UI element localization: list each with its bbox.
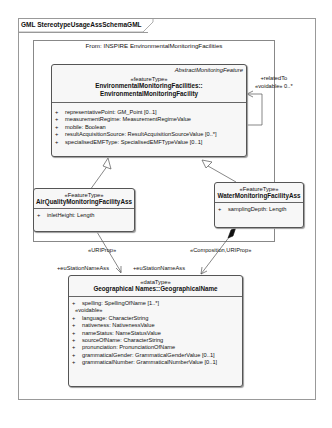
attribute-list: +representativePoint: GM_Point [0..1] +m… — [52, 102, 246, 148]
attribute: +resultAcquisitionSource: ResultAcquisit… — [55, 131, 243, 138]
voidable-label: «voidable» — [72, 307, 239, 314]
class-name: WaterMonitoringFacilityAss — [215, 192, 303, 200]
self-association-label: +relatedTo «voidable» 0..* — [255, 74, 293, 90]
class-environmental-monitoring-facility[interactable]: AbstractMonitoringFeature «featureType» … — [51, 64, 247, 157]
association-stereotype-composition: «Composition,URIProp» — [190, 247, 251, 253]
attribute: +representativePoint: GM_Point [0..1] — [55, 109, 243, 116]
class-name: Geographical Names::GeographicalName — [69, 285, 242, 293]
attribute-list: +samplingDepth: Length — [215, 202, 303, 215]
attribute: +nativeness: NativenessValue — [72, 322, 239, 329]
attribute: +sourceOfName: CharacterString — [72, 337, 239, 344]
attribute-list: +spelling: SpellingOfName [1..*] «voidab… — [69, 296, 242, 369]
association-role-air: +euStationNameAss — [57, 265, 109, 271]
association-role-water: +euStationNameAss — [133, 265, 185, 271]
attribute: +mobile: Boolean — [55, 124, 243, 131]
attribute-list: +inletHeight: Length — [34, 208, 134, 221]
attribute: +grammaticalGender: GrammaticalGenderVal… — [72, 352, 239, 359]
attribute: +grammaticalNumber: GrammaticalNumberVal… — [72, 359, 239, 366]
abstract-parent-label: AbstractMonitoringFeature — [52, 65, 246, 73]
attribute: +samplingDepth: Length — [218, 206, 300, 213]
class-air-quality-monitoring-facility[interactable]: «FeatureType» AirQualityMonitoringFacili… — [33, 188, 135, 232]
attribute: +nameStatus: NameStatusValue — [72, 330, 239, 337]
attribute: +specialisedEMFType: SpecialisedEMFTypeV… — [55, 139, 243, 146]
attribute: +inletHeight: Length — [37, 212, 131, 219]
attribute: +pronunciation: PronunciationOfName — [72, 344, 239, 351]
association-stereotype-uriprop: «URIProp» — [88, 247, 116, 253]
attribute: +measurementRegime: MeasurementRegimeVal… — [55, 116, 243, 123]
attribute: +language: CharacterString — [72, 315, 239, 322]
attribute: +spelling: SpellingOfName [1..*] — [72, 300, 239, 307]
class-water-monitoring-facility[interactable]: «FeatureType» WaterMonitoringFacilityAss… — [214, 182, 304, 228]
class-geographical-name[interactable]: «dataType» Geographical Names::Geographi… — [68, 275, 243, 387]
class-name-line2: EnvironmentalMonitoringFacility — [52, 90, 246, 98]
class-name-line1: EnvironmentalMonitoringFacilities:: — [52, 82, 246, 90]
class-name: AirQualityMonitoringFacilityAss — [34, 198, 134, 206]
